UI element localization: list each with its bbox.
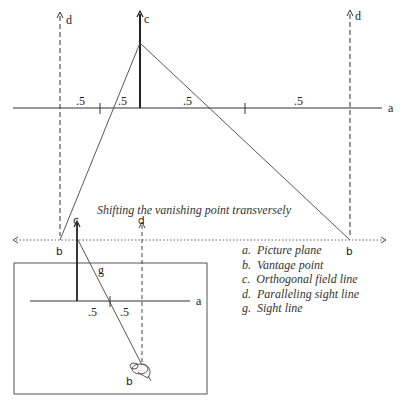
label-a: a bbox=[388, 101, 394, 115]
label-b-left: b bbox=[56, 245, 63, 257]
inset-label-d: d bbox=[138, 214, 145, 226]
segment-label: .5 bbox=[294, 94, 303, 108]
inset-frame bbox=[14, 263, 207, 394]
inset-diagram: c d g a .5 .5 b bbox=[14, 214, 207, 394]
inset-label-g: g bbox=[98, 263, 104, 277]
legend-item-c: c. Orthogonal field line bbox=[242, 272, 359, 287]
legend-item-a: a. Picture plane bbox=[242, 243, 359, 258]
segment-label: .5 bbox=[183, 94, 192, 108]
segment-label: .5 bbox=[118, 94, 127, 108]
label-d-left: d bbox=[66, 13, 72, 27]
inset-label-c: c bbox=[73, 214, 79, 226]
legend: a. Picture plane b. Vantage point c. Ort… bbox=[242, 243, 359, 316]
legend-item-d: d. Paralleling sight line bbox=[242, 287, 359, 302]
label-d-right: d bbox=[355, 9, 361, 23]
perspective-diagram: d c d a .5 .5 .5 .5 b b Shifting the van… bbox=[0, 0, 402, 408]
segment-label: .5 bbox=[88, 305, 97, 319]
caption: Shifting the vanishing point transversel… bbox=[97, 203, 292, 217]
inset-label-a: a bbox=[196, 294, 202, 308]
segment-label: .5 bbox=[76, 94, 85, 108]
viewer-figure-icon bbox=[130, 363, 151, 381]
legend-item-g: g. Sight line bbox=[242, 301, 359, 316]
inset-label-b: b bbox=[126, 375, 133, 387]
legend-item-b: b. Vantage point bbox=[242, 258, 359, 273]
top-diagram: d c d a .5 .5 .5 .5 b b Shifting the van… bbox=[13, 9, 394, 257]
segment-label: .5 bbox=[120, 305, 129, 319]
label-c: c bbox=[144, 12, 149, 26]
